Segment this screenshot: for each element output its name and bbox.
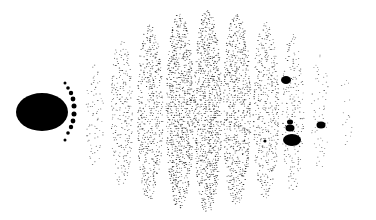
dot [177,47,178,48]
dot [192,123,194,124]
dot [199,167,200,168]
dot [259,44,260,45]
dot [119,152,120,153]
dot [242,37,243,38]
dot [264,123,266,124]
dot [264,147,265,148]
dot [237,126,239,127]
dot [192,106,193,107]
dot [147,153,148,154]
dot [174,188,175,189]
dot [234,180,235,181]
dot [207,64,209,65]
dot [177,182,178,183]
dot [157,121,158,122]
dot [182,88,184,89]
dot [236,141,237,142]
dot [233,35,234,36]
dot [88,126,89,127]
dot [198,66,199,67]
dot [290,156,291,157]
dot [267,59,268,60]
dot [176,84,177,85]
dot [140,145,141,146]
dot [150,121,151,122]
dot [198,120,199,121]
dot [220,100,221,101]
dot [178,64,179,65]
dot [266,54,267,55]
dot [127,63,128,64]
dot [196,93,198,94]
dot [141,111,143,112]
dot [178,164,179,165]
dot [273,42,274,43]
dot [178,137,179,138]
dot [232,57,233,58]
dot [243,78,244,79]
dot [197,41,199,42]
dot [224,81,225,82]
dot [172,36,173,37]
dot [266,147,267,148]
dot [168,111,169,112]
dot [230,108,232,109]
dot [215,159,216,160]
dot [300,73,301,74]
dot [170,108,171,109]
dot [92,153,93,154]
dot [201,118,202,119]
dot [209,164,210,165]
dot [210,205,211,206]
dot [219,102,220,103]
dot [319,161,320,162]
dot [234,186,235,187]
dot [205,93,206,94]
dot [270,79,271,80]
dot [156,107,157,108]
dot [241,75,242,76]
dot [167,137,168,138]
dot [204,113,205,114]
dot [248,132,249,133]
dot [247,129,248,130]
dot [267,70,268,71]
dot [295,37,296,38]
dot [167,85,168,86]
dot [171,174,172,175]
dot [189,93,190,94]
dot [125,73,126,74]
dot [211,120,213,121]
dot [158,152,159,153]
dot [177,25,179,26]
dot [232,179,233,180]
dot [101,121,102,122]
dot [214,76,216,77]
dot [214,68,215,69]
dot [240,144,241,145]
dot [148,66,149,67]
dot [186,190,187,191]
dot [187,173,188,174]
dot [232,188,233,189]
dot [204,42,205,43]
dot [130,157,131,158]
dot [203,13,205,14]
dot [127,99,129,100]
dot [206,194,207,195]
dot [190,67,191,68]
dot [211,172,212,173]
dot [154,134,155,135]
dot [254,103,256,104]
dot [178,190,179,191]
dot [92,164,94,165]
dot [188,76,189,77]
dot [239,193,240,194]
dot [289,45,291,46]
dot [228,70,229,71]
dot [207,162,208,163]
dot [210,169,211,170]
dot [155,119,156,120]
dot [229,182,231,183]
dot [168,60,169,61]
